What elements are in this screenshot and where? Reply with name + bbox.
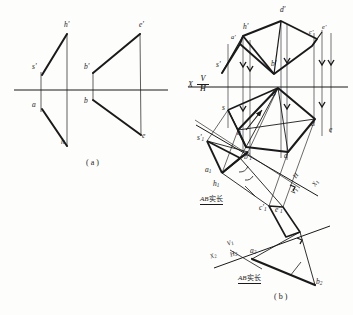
technical-drawing-canvas xyxy=(0,0,353,315)
panel-b-edge-s-prime-h-prime xyxy=(222,36,243,73)
annotation-ab-true-length-lower: AB实长 xyxy=(238,275,261,284)
label-b-prime-b: b' xyxy=(271,60,276,68)
label-h-a: h xyxy=(61,138,65,146)
panel-b-leader-lower xyxy=(290,262,301,276)
label-s1-prime-b: s'1 xyxy=(197,134,204,142)
panel-b-aux-lower-quad xyxy=(269,206,300,237)
panel-a-line-s-h-prime xyxy=(42,34,67,75)
label-b2-b: b2 xyxy=(316,278,322,286)
figure-root: h' s' a h b' b e' e ( a ) X V H d' h' a'… xyxy=(0,0,353,315)
label-d-b: d xyxy=(284,152,288,160)
label-h-prime-a: h' xyxy=(64,21,69,29)
panel-b-axis-vh-fraction: V H xyxy=(197,75,209,93)
label-a-a: a xyxy=(32,101,36,109)
label-s-prime-a: s' xyxy=(32,63,37,71)
panel-b-axis-h-label: H xyxy=(197,85,209,93)
panel-b-upper-polygon xyxy=(240,21,317,74)
panel-b-axis-v-label: V xyxy=(197,75,209,83)
label-s-b: s xyxy=(222,104,225,112)
label-b-b: b xyxy=(272,90,276,98)
label-h-prime-b: h' xyxy=(243,23,248,31)
panel-a-caption: ( a ) xyxy=(86,158,99,167)
panel-b-aux2-ray-a xyxy=(252,232,300,259)
label-b-prime-a: b' xyxy=(84,63,89,71)
panel-a-graphics xyxy=(14,33,168,147)
panel-b-graphics xyxy=(188,21,348,285)
label-e-b: e xyxy=(329,126,332,134)
label-b-a: b xyxy=(84,97,88,105)
panel-b-true-length-a2-b2 xyxy=(252,259,315,285)
label-a2-b: a2 xyxy=(250,247,256,255)
panel-b-lower-polygon-inner xyxy=(238,88,315,152)
label-h1-b: h1 xyxy=(213,180,219,188)
label-c-prime-b: c' xyxy=(309,29,313,36)
panel-b-caption: ( b ) xyxy=(274,292,287,301)
label-e-a: e xyxy=(142,132,145,140)
panel-b-angle-arc-1 xyxy=(239,166,248,172)
panel-b-aux-cluster-left xyxy=(207,141,248,173)
panel-b-axis-x-label: X xyxy=(188,80,193,89)
label-e1-prime-b: e'1 xyxy=(275,206,283,214)
panel-a-line-b-e xyxy=(93,100,141,135)
panel-a-projector-ee xyxy=(140,33,141,136)
label-d-prime-b: d' xyxy=(280,6,285,14)
label-a1-b: a1 xyxy=(205,166,211,174)
label-c1-prime-b: c'1 xyxy=(259,204,267,212)
label-s-prime-b: s' xyxy=(216,61,221,69)
panel-b-angle-arc-2 xyxy=(245,176,253,180)
annotation-ab-true-length-upper: AB实长 xyxy=(200,196,223,205)
label-e-prime-a: e' xyxy=(139,21,144,29)
label-a-b: a xyxy=(237,129,241,137)
panel-a-line-b-e-prime xyxy=(93,34,140,73)
panel-b-aux-ground-line-2 xyxy=(214,226,330,268)
panel-b-leader-upper xyxy=(245,186,255,196)
label-a-prime-b: a' xyxy=(231,34,236,41)
label-b1-prime-b: b'1 xyxy=(244,153,252,161)
panel-b-lower-polygon xyxy=(238,88,315,152)
panel-b-aux2-ray-b xyxy=(300,232,315,285)
label-e-prime-b: e' xyxy=(322,24,326,31)
label-c-b: c xyxy=(311,120,314,128)
